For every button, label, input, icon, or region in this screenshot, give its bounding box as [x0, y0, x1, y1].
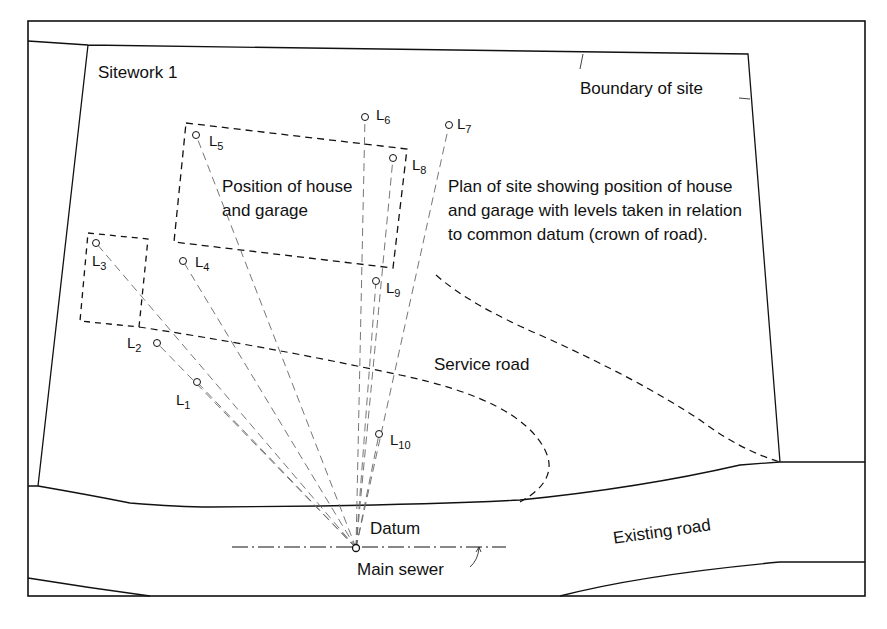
outer-frame	[28, 21, 865, 596]
site-boundary	[28, 41, 780, 486]
level-label-l8: L8	[412, 157, 426, 176]
level-label-l9: L9	[386, 280, 400, 299]
site-plan-drawing	[0, 0, 887, 629]
main-sewer-label: Main sewer	[357, 561, 444, 578]
level-label-l7: L7	[457, 116, 471, 135]
level-label-l3: L3	[92, 253, 106, 272]
road-north-edge	[28, 462, 865, 507]
level-label-l2: L2	[127, 335, 141, 354]
service-road-inner	[139, 327, 549, 502]
house-label-line2: and garage	[222, 202, 308, 219]
house-label-line1: Position of house	[222, 178, 352, 195]
level-label-l4: L4	[195, 254, 209, 273]
level-label-l1: L1	[176, 392, 190, 411]
level-label-l10: L10	[390, 432, 411, 451]
level-points	[93, 114, 453, 438]
sewer-arrow	[470, 547, 481, 567]
level-label-l5: L5	[209, 133, 223, 152]
level-label-l6: L6	[376, 107, 390, 126]
datum-point	[353, 545, 360, 552]
boundary-label: Boundary of site	[580, 80, 703, 97]
description-label: Plan of site showing position of house a…	[448, 175, 758, 247]
road-south-edge	[28, 562, 865, 596]
outbuilding-outline	[80, 233, 148, 327]
datum-label: Datum	[370, 520, 420, 537]
service-road-label: Service road	[434, 356, 529, 373]
diagram-title: Sitework 1	[98, 64, 177, 81]
